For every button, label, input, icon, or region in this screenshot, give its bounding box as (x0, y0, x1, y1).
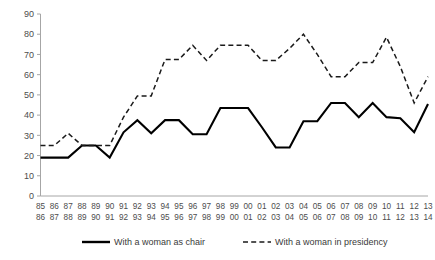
x-tick-label-top: 13 (423, 202, 433, 211)
x-tick-label-top: 12 (410, 202, 420, 211)
x-tick-label-top: 95 (174, 202, 184, 211)
x-tick-label-top: 08 (354, 202, 364, 211)
y-tick-label: 0 (29, 191, 34, 201)
x-tick-label-top: 11 (396, 202, 405, 211)
x-tick-label-top: 86 (50, 202, 60, 211)
x-tick-label-bottom: 10 (368, 213, 378, 222)
y-tick-label: 80 (24, 29, 34, 39)
x-tick-label-top: 85 (36, 202, 46, 211)
x-tick-label-bottom: 12 (396, 213, 406, 222)
x-tick-label-bottom: 89 (77, 213, 87, 222)
x-tick-label-top: 88 (77, 202, 87, 211)
x-tick-label-top: 91 (119, 202, 129, 211)
y-tick-label: 70 (24, 50, 34, 60)
legend-label-0: With a woman as chair (114, 237, 205, 247)
x-tick-label-top: 07 (340, 202, 350, 211)
series-line-1 (41, 34, 429, 145)
line-chart: 0102030405060708090 85868687878888898990… (0, 0, 435, 260)
x-tick-label-top: 93 (147, 202, 157, 211)
x-tick-label-top: 05 (313, 202, 323, 211)
x-tick-label-bottom: 01 (244, 213, 254, 222)
x-tick-label-bottom: 93 (133, 213, 143, 222)
y-tick-label: 20 (24, 151, 34, 161)
y-tick-label: 30 (24, 131, 34, 141)
y-tick-label: 90 (24, 9, 34, 19)
y-axis: 0102030405060708090 (24, 9, 41, 201)
x-tick-label-bottom: 99 (216, 213, 226, 222)
series-layer (41, 34, 429, 157)
x-tick-label-bottom: 14 (423, 213, 433, 222)
x-tick-label-top: 97 (202, 202, 212, 211)
y-tick-label: 10 (24, 171, 34, 181)
x-tick-label-bottom: 11 (382, 213, 391, 222)
x-tick-label-top: 96 (188, 202, 198, 211)
x-tick-label-top: 94 (160, 202, 170, 211)
chart-container: 0102030405060708090 85868687878888898990… (0, 0, 435, 260)
x-tick-label-bottom: 07 (327, 213, 337, 222)
x-tick-label-top: 06 (327, 202, 337, 211)
x-tick-label-bottom: 13 (410, 213, 420, 222)
x-tick-label-bottom: 05 (299, 213, 309, 222)
x-axis: 8586868787888889899090919192929393949495… (36, 196, 433, 222)
x-tick-label-bottom: 91 (105, 213, 115, 222)
x-tick-label-top: 01 (257, 202, 267, 211)
series-line-0 (41, 103, 429, 158)
x-tick-label-bottom: 00 (230, 213, 240, 222)
x-tick-label-bottom: 98 (202, 213, 212, 222)
y-tick-label: 50 (24, 90, 34, 100)
x-tick-label-bottom: 88 (64, 213, 74, 222)
x-tick-label-bottom: 92 (119, 213, 129, 222)
x-tick-label-top: 03 (285, 202, 295, 211)
x-tick-label-bottom: 09 (354, 213, 364, 222)
x-tick-label-top: 99 (230, 202, 240, 211)
x-tick-label-top: 90 (105, 202, 115, 211)
legend-label-1: With a woman in presidency (275, 237, 388, 247)
x-tick-label-top: 89 (91, 202, 101, 211)
x-tick-label-bottom: 95 (160, 213, 170, 222)
x-tick-label-top: 00 (244, 202, 254, 211)
x-tick-label-bottom: 08 (340, 213, 350, 222)
x-tick-label-top: 10 (382, 202, 392, 211)
x-tick-label-bottom: 94 (147, 213, 157, 222)
x-tick-label-top: 92 (133, 202, 143, 211)
x-tick-label-top: 09 (368, 202, 378, 211)
x-tick-label-bottom: 03 (271, 213, 281, 222)
x-tick-label-bottom: 06 (313, 213, 323, 222)
x-tick-label-top: 02 (271, 202, 281, 211)
chart-legend: With a woman as chairWith a woman in pre… (82, 237, 388, 247)
x-tick-label-top: 87 (64, 202, 74, 211)
y-tick-label: 60 (24, 70, 34, 80)
y-tick-label: 40 (24, 110, 34, 120)
x-tick-label-bottom: 04 (285, 213, 295, 222)
x-tick-label-bottom: 97 (188, 213, 198, 222)
x-tick-label-top: 98 (216, 202, 226, 211)
x-tick-label-bottom: 02 (257, 213, 267, 222)
x-tick-label-bottom: 87 (50, 213, 60, 222)
x-tick-label-top: 04 (299, 202, 309, 211)
x-tick-label-bottom: 86 (36, 213, 46, 222)
x-tick-label-bottom: 90 (91, 213, 101, 222)
x-tick-label-bottom: 96 (174, 213, 184, 222)
